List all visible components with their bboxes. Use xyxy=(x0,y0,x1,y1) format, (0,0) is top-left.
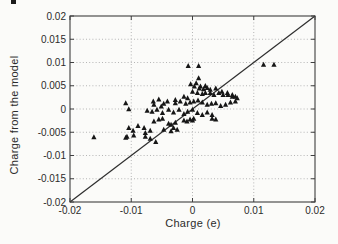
x-tick-label: -0.01 xyxy=(120,205,143,216)
x-tick-label: 0.01 xyxy=(244,205,264,216)
data-point xyxy=(126,106,131,111)
data-point xyxy=(178,98,183,103)
data-point xyxy=(151,118,156,123)
data-point xyxy=(131,132,136,137)
data-point xyxy=(151,98,156,103)
x-tick-label: 0 xyxy=(190,205,196,216)
data-point xyxy=(213,100,218,105)
data-point xyxy=(195,110,200,115)
data-point xyxy=(156,117,161,122)
data-point xyxy=(183,101,188,106)
y-tick-label: -0.01 xyxy=(43,150,66,161)
data-point xyxy=(142,125,147,130)
x-tick-label: 0.02 xyxy=(305,205,325,216)
data-point xyxy=(148,128,153,133)
data-point xyxy=(219,89,224,94)
y-tick-label: 0.015 xyxy=(41,34,66,45)
data-point xyxy=(209,101,214,106)
data-point xyxy=(213,117,218,122)
scatter-figure: -0.02-0.0100.010.02-0.02-0.015-0.01-0.00… xyxy=(0,0,338,244)
data-point xyxy=(176,107,181,112)
data-point xyxy=(156,97,161,102)
data-point xyxy=(218,103,223,108)
data-point xyxy=(154,107,159,112)
data-point xyxy=(148,136,153,141)
data-point xyxy=(160,110,165,115)
data-point xyxy=(195,98,200,103)
data-point xyxy=(145,108,150,113)
y-tick-label: -0.005 xyxy=(38,127,67,138)
data-point xyxy=(91,134,96,139)
data-point xyxy=(126,125,131,130)
data-point xyxy=(123,100,128,105)
data-point xyxy=(190,89,195,94)
data-point xyxy=(223,102,228,107)
data-point xyxy=(191,98,196,103)
data-point xyxy=(160,116,165,121)
x-axis-title: Charge (e) xyxy=(165,217,221,229)
data-point xyxy=(200,112,205,117)
data-point xyxy=(186,63,191,68)
data-point xyxy=(228,99,233,104)
y-tick-label: 0.01 xyxy=(47,57,67,68)
data-point xyxy=(165,98,170,103)
y-tick-label: -0.02 xyxy=(43,197,66,208)
data-point xyxy=(195,90,200,95)
y-tick-label: 0.02 xyxy=(47,11,67,22)
y-tick-label: 0 xyxy=(60,104,66,115)
data-point xyxy=(171,110,176,115)
data-point xyxy=(135,123,140,128)
data-point xyxy=(205,110,210,115)
data-point xyxy=(196,63,201,68)
y-tick-label: -0.015 xyxy=(38,173,67,184)
y-tick-label: 0.005 xyxy=(41,80,66,91)
data-point xyxy=(181,94,186,99)
y-axis-title: Charge from the model xyxy=(8,56,20,175)
plot-area: -0.02-0.0100.010.02-0.02-0.015-0.01-0.00… xyxy=(0,0,338,244)
data-point xyxy=(196,75,201,80)
data-point xyxy=(153,139,158,144)
data-point xyxy=(205,102,210,107)
